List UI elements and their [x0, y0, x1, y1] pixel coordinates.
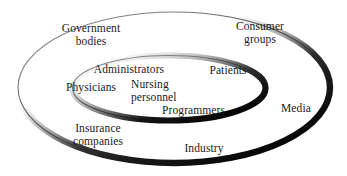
label-nursing-personnel: Nursing personnel: [131, 78, 193, 103]
label-administrators: Administrators: [89, 63, 169, 76]
label-patients: Patients: [203, 64, 253, 77]
label-physicians: Physicians: [66, 81, 128, 94]
label-government-bodies: Government bodies: [52, 22, 130, 47]
label-insurance-companies: Insurance companies: [62, 122, 134, 147]
label-media: Media: [274, 102, 318, 115]
label-programmers: Programmers: [162, 104, 242, 117]
label-industry: Industry: [179, 142, 229, 155]
label-consumer-groups: Consumer groups: [225, 20, 295, 45]
diagram-canvas: Government bodies Consumer groups Admini…: [0, 0, 347, 176]
